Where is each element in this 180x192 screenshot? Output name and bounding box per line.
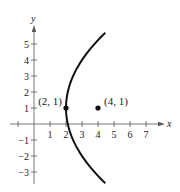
vertex-point-label: (2, 1) bbox=[38, 95, 62, 108]
y-tick-label: 2 bbox=[24, 87, 29, 98]
y-tick-label: 4 bbox=[24, 55, 29, 66]
points-layer: (2, 1)(4, 1) bbox=[38, 95, 128, 111]
x-tick-label: 1 bbox=[48, 129, 53, 140]
y-tick-label: 1 bbox=[24, 103, 29, 114]
x-tick-label: 6 bbox=[128, 129, 133, 140]
x-tick-label: 7 bbox=[144, 129, 149, 140]
vertex-point bbox=[63, 105, 68, 110]
y-axis-label: y bbox=[30, 13, 36, 24]
focus-point bbox=[95, 105, 100, 110]
y-tick-label: −3 bbox=[18, 167, 29, 178]
x-axis-label: x bbox=[166, 118, 172, 129]
parabola-chart: 1234567−3−2−112345 (2, 1)(4, 1) x y bbox=[0, 0, 180, 192]
y-tick-label: −2 bbox=[18, 151, 29, 162]
y-tick-label: 5 bbox=[24, 39, 29, 50]
axes bbox=[10, 25, 165, 184]
x-tick-label: 3 bbox=[80, 129, 85, 140]
y-tick-label: 3 bbox=[24, 71, 29, 82]
x-axis-arrow-icon bbox=[158, 122, 165, 126]
x-tick-label: 4 bbox=[96, 129, 101, 140]
x-tick-label: 5 bbox=[112, 129, 117, 140]
x-tick-label: 2 bbox=[64, 129, 69, 140]
y-tick-label: −1 bbox=[18, 135, 29, 146]
focus-point-label: (4, 1) bbox=[104, 95, 128, 108]
y-axis-arrow-icon bbox=[32, 25, 36, 32]
